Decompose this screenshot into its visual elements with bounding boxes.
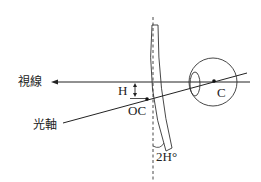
- lens-profile: [151, 25, 172, 151]
- center-of-rotation-dot: [212, 79, 216, 83]
- height-label: H: [118, 84, 127, 97]
- height-dimension: [130, 83, 146, 99]
- arrowhead-icon: [51, 80, 58, 85]
- center-of-rotation-label: C: [217, 86, 226, 99]
- tilt-angle-label: 2H°: [156, 150, 177, 163]
- cornea-lens: [190, 72, 200, 96]
- optical-center-label: OC: [128, 104, 146, 117]
- line-of-sight-label: 視線: [18, 76, 42, 88]
- tilt-angle-arc: [153, 143, 164, 147]
- diagram-canvas: 視線 光軸 H OC C 2H°: [0, 0, 261, 182]
- optical-axis-label: 光軸: [33, 119, 57, 131]
- optical-center-dot: [145, 97, 149, 101]
